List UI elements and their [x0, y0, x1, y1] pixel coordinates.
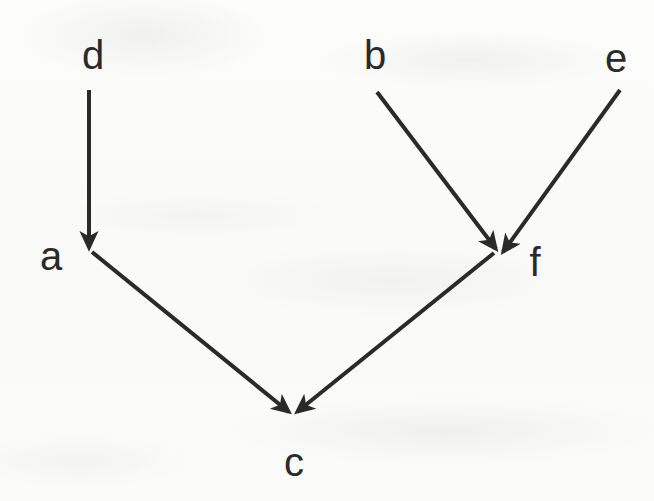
- node-label-a: a: [40, 236, 62, 276]
- edge-a-to-c: [92, 252, 289, 412]
- node-label-b: b: [364, 35, 386, 75]
- node-label-e: e: [605, 38, 627, 78]
- node-label-f: f: [529, 242, 540, 282]
- edge-b-to-f: [377, 92, 496, 249]
- edge-e-to-f: [503, 90, 620, 252]
- node-label-c: c: [284, 442, 304, 482]
- node-label-d: d: [82, 35, 104, 75]
- edge-f-to-c: [297, 253, 494, 412]
- graph-figure: d b e a f c: [0, 0, 654, 501]
